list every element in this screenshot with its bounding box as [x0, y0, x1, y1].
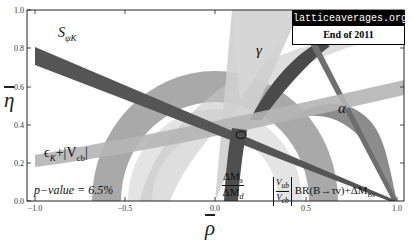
p-value-annotation: p−value = 6.5%	[34, 183, 113, 198]
svg-text:−1.0: −1.0	[28, 204, 43, 213]
x-axis-label: ρ	[205, 216, 215, 241]
svg-text:1.0: 1.0	[392, 204, 402, 213]
y-tick-labels: 0.0 0.2 0.4 0.6 0.8 1.0	[14, 6, 24, 206]
svg-text:1.0: 1.0	[14, 6, 24, 15]
svg-text:0.0: 0.0	[210, 204, 220, 213]
svg-text:−0.5: −0.5	[118, 204, 133, 213]
svg-text:0.6: 0.6	[14, 83, 24, 92]
label-spsik: SψK	[58, 25, 77, 43]
label-dms-dmd: ΔMs ΔMd	[222, 170, 244, 201]
label-alpha: α	[338, 100, 346, 117]
y-axis-label: η	[4, 88, 14, 113]
label-vub-brtau: VubVcb BR(B→τν)+ΔMBs	[273, 177, 375, 206]
brand-url: latticeaverages.org	[293, 11, 404, 26]
svg-text:0.8: 0.8	[14, 44, 24, 53]
date-label: End of 2011	[293, 26, 404, 43]
svg-text:0.2: 0.2	[14, 159, 24, 168]
vub-vcb-fraction: VubVcb	[273, 177, 292, 206]
label-gamma: γ	[256, 42, 262, 59]
svg-text:0.0: 0.0	[14, 197, 24, 206]
label-epsk-vcb: ϵK+|Vcb|	[44, 145, 88, 163]
brand-legend-box: latticeaverages.org End of 2011	[292, 10, 405, 45]
svg-text:0.4: 0.4	[14, 121, 24, 130]
